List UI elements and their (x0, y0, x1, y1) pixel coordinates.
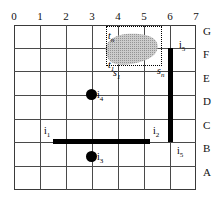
label-i-2-sub: 2 (156, 131, 160, 139)
label-i-3: i3 (97, 152, 103, 166)
query-region-rect (106, 26, 162, 66)
column-label-7: 7 (189, 10, 203, 22)
label-i-5-bottom-sub: 5 (180, 151, 184, 159)
label-t-n-sub: n (111, 36, 115, 44)
label-i-1: i1 (44, 126, 50, 140)
label-i-3-sub: 3 (100, 157, 104, 165)
point-i4 (86, 89, 97, 100)
label-i-5-top: i5 (179, 40, 185, 54)
row-label-A: A (203, 166, 217, 178)
label-s-n: sn (157, 66, 164, 80)
label-t-n: tn (108, 31, 114, 45)
point-i3 (86, 151, 97, 162)
grid-figure: 0 1 2 3 4 5 6 7 G F E D C B A (0, 0, 223, 200)
column-label-1: 1 (33, 10, 47, 22)
label-s-n-sub: n (161, 71, 165, 79)
column-label-2: 2 (59, 10, 73, 22)
row-label-F: F (203, 48, 217, 60)
label-i-1-sub: 1 (47, 131, 51, 139)
row-label-E: E (203, 72, 217, 84)
column-label-0: 0 (7, 10, 21, 22)
gridline-horizontal-BA (14, 166, 196, 167)
column-label-6: 6 (163, 10, 177, 22)
column-label-5: 5 (137, 10, 151, 22)
row-label-C: C (203, 119, 217, 131)
row-label-G: G (203, 25, 217, 37)
column-label-3: 3 (85, 10, 99, 22)
row-label-B: B (203, 142, 217, 154)
label-i-5-bottom: i5 (177, 146, 183, 160)
obstacle-horizontal-barrier (53, 139, 150, 144)
label-i-4: i4 (97, 90, 103, 104)
column-label-4: 4 (111, 10, 125, 22)
row-label-D: D (203, 95, 217, 107)
label-s-1-sub: 1 (117, 73, 121, 81)
label-i-4-sub: 4 (100, 95, 104, 103)
label-i-5-top-sub: 5 (182, 45, 186, 53)
label-i-2: i2 (153, 126, 159, 140)
label-s-1: s1 (113, 68, 120, 82)
obstacle-vertical-barrier (168, 48, 173, 142)
